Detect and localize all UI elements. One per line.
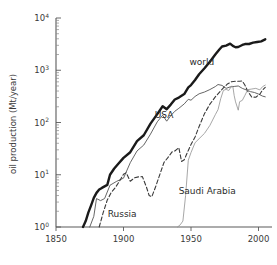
- y-tick-label: 102: [34, 116, 49, 128]
- series-label-usa: USA: [155, 110, 174, 120]
- series-line-russia: [99, 81, 265, 227]
- y-tick-label: 100: [34, 221, 49, 233]
- series-line-saudi_arabia: [178, 85, 266, 227]
- series-labels: worldUSARussiaSaudi Arabia: [108, 57, 236, 219]
- series-label-russia: Russia: [108, 209, 137, 219]
- x-axis-ticks: 1850190019502000: [45, 227, 269, 244]
- series-line-world: [83, 39, 265, 227]
- x-tick-label: 1950: [180, 234, 202, 244]
- y-tick-label: 101: [34, 168, 49, 180]
- x-tick-label: 1900: [113, 234, 135, 244]
- series-label-world: world: [189, 57, 214, 67]
- y-axis-ticks: 100101102103104: [34, 12, 61, 233]
- y-tick-label: 104: [34, 12, 49, 24]
- x-tick-label: 1850: [45, 234, 67, 244]
- series-label-saudi_arabia: Saudi Arabia: [179, 186, 236, 196]
- plot-lines: [83, 39, 265, 227]
- y-axis-title: oil production (Mt/year): [8, 74, 18, 174]
- oil-production-chart: oil production (Mt/year) 100101102103104…: [0, 0, 277, 265]
- y-tick-label: 103: [34, 64, 49, 76]
- x-tick-label: 2000: [248, 234, 270, 244]
